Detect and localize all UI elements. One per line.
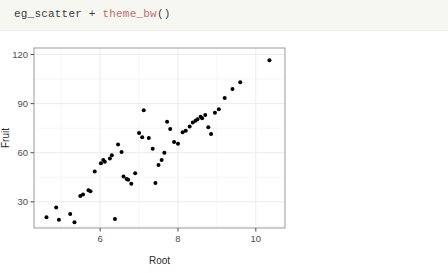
scatter-point [72,220,76,224]
scatter-point [137,131,141,135]
scatter-point [165,120,169,124]
x-axis-tick-labels: 6810 [98,233,262,244]
x-tick-label: 8 [175,233,180,244]
scatter-point [103,160,107,164]
scatter-point [81,192,85,196]
scatter-point [147,136,151,140]
scatter-point [129,182,133,186]
x-axis-ticks [100,228,256,232]
plot-output-area: 6810 306090120 Root Fruit [0,31,448,273]
scatter-point [217,107,221,111]
scatter-point [153,181,157,185]
scatter-point [68,212,72,216]
code-cell[interactable]: eg_scatter + theme_bw() [0,0,448,31]
scatter-point [188,125,192,129]
scatter-point [116,143,120,147]
code-token-parens: () [157,8,171,20]
y-axis-tick-labels: 306090120 [12,49,28,207]
scatter-point [88,189,92,193]
scatter-point [142,108,146,112]
scatter-point [122,174,126,178]
scatter-point [54,206,58,210]
x-axis-title: Root [149,255,170,266]
y-axis-title: Fruit [0,128,11,148]
scatter-point [162,151,166,155]
scatter-point [93,170,97,174]
plot-panel-background [34,48,285,228]
scatter-point [213,111,217,115]
scatter-point [223,96,227,100]
scatter-point [203,113,207,117]
screenshot-root: eg_scatter + theme_bw() 6810 306090120 R… [0,0,448,273]
scatter-point [230,87,234,91]
x-tick-label: 6 [98,233,103,244]
scatter-point [133,171,137,175]
code-token-space-1 [82,8,89,20]
scatter-point [176,142,180,146]
scatter-point [99,161,103,165]
scatter-point [195,117,199,121]
code-line: eg_scatter + theme_bw() [14,7,170,21]
scatter-point [44,215,48,219]
scatter-point [57,218,61,222]
scatter-point [126,178,130,182]
code-token-operator: + [89,8,96,20]
code-token-function: theme_bw [102,8,156,20]
y-tick-label: 30 [17,196,28,207]
scatter-point [238,80,242,84]
scatter-point [110,153,114,157]
scatter-point [140,135,144,139]
y-tick-label: 120 [12,49,28,60]
scatter-point [267,58,271,62]
code-token-object: eg_scatter [14,8,82,20]
scatter-point [113,217,117,221]
scatter-point [120,150,124,154]
y-axis-ticks [31,55,35,202]
y-tick-label: 60 [17,147,28,158]
scatter-point [200,116,204,120]
scatter-plot: 6810 306090120 Root Fruit [0,31,448,273]
scatter-point [209,132,213,136]
scatter-point [151,147,155,151]
scatter-point [160,158,164,162]
scatter-point [184,129,188,133]
scatter-point [172,140,176,144]
scatter-point [168,127,172,131]
y-tick-label: 90 [17,98,28,109]
x-tick-label: 10 [251,233,262,244]
scatter-point [206,125,210,129]
scatter-point [157,163,161,167]
